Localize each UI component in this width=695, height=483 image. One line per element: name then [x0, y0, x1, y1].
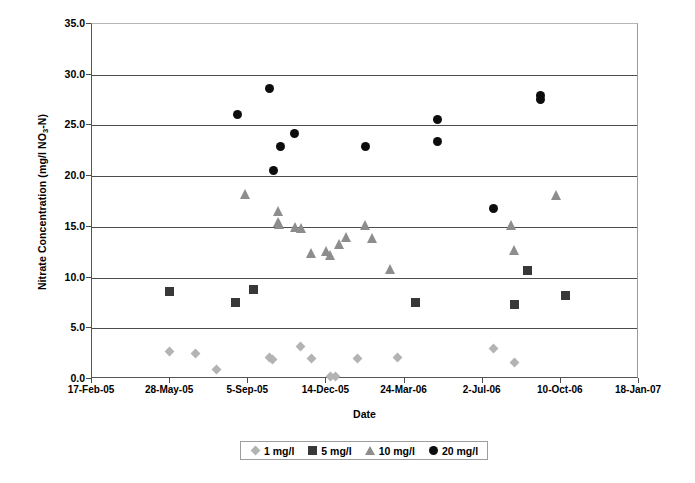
- data-point-diamond: [489, 344, 499, 354]
- data-point-triangle: [551, 190, 561, 200]
- legend-entry-label: 1 mg/l: [264, 445, 294, 457]
- x-axis-tick-mark: [247, 378, 248, 383]
- data-point-diamond: [393, 353, 403, 363]
- y-axis-tick-mark: [86, 175, 91, 176]
- data-point-triangle: [240, 189, 250, 199]
- data-point-triangle: [273, 206, 283, 216]
- x-axis-tick-label: 5-Sep-05: [202, 384, 292, 395]
- data-point-circle: [489, 204, 498, 213]
- data-point-square: [231, 298, 240, 307]
- gridline-horizontal: [92, 75, 637, 76]
- data-point-triangle: [360, 220, 370, 230]
- data-point-square: [510, 300, 519, 309]
- y-axis-tick-label: 20.0: [37, 170, 85, 180]
- data-point-diamond: [267, 355, 277, 365]
- y-axis-tick-label: 15.0: [37, 221, 85, 231]
- data-point-square: [523, 266, 532, 275]
- data-point-diamond: [191, 349, 201, 359]
- y-axis-tick-label: 5.0: [37, 322, 85, 332]
- x-axis-tick-mark: [91, 378, 92, 383]
- x-axis-tick-label: 28-May-05: [124, 384, 214, 395]
- x-axis-tick-label: 2-Jul-06: [437, 384, 527, 395]
- plot-area: [91, 23, 638, 378]
- chart-legend: 1 mg/l5 mg/l10 mg/l20 mg/l: [240, 441, 488, 460]
- x-axis-tick-label: 17-Feb-05: [46, 384, 136, 395]
- data-point-triangle: [321, 246, 331, 256]
- data-point-circle: [290, 129, 299, 138]
- y-axis-tick-label: 30.0: [37, 69, 85, 79]
- data-point-circle: [233, 110, 242, 119]
- data-point-triangle: [367, 233, 377, 243]
- gridline-horizontal: [92, 227, 637, 228]
- data-point-diamond: [212, 365, 222, 375]
- gridline-horizontal: [92, 278, 637, 279]
- legend-entry: 10 mg/l: [365, 445, 415, 457]
- gridline-horizontal: [92, 176, 637, 177]
- data-point-triangle: [325, 250, 335, 260]
- legend-entry-label: 5 mg/l: [321, 445, 351, 457]
- square-marker-icon: [307, 445, 318, 456]
- data-point-triangle: [296, 223, 306, 233]
- legend-entry: 1 mg/l: [250, 445, 294, 457]
- legend-entry: 20 mg/l: [428, 445, 478, 457]
- data-point-diamond: [306, 354, 316, 364]
- y-axis-tick-label: 10.0: [37, 272, 85, 282]
- x-axis-tick-label: 10-Oct-06: [515, 384, 605, 395]
- data-point-triangle: [334, 239, 344, 249]
- x-axis-tick-label: 14-Dec-05: [280, 384, 370, 395]
- x-axis-title: Date: [91, 408, 638, 420]
- data-point-square: [561, 291, 570, 300]
- y-axis-title-subscript: 3: [41, 129, 50, 133]
- data-point-circle: [269, 166, 278, 175]
- data-point-triangle: [506, 220, 516, 230]
- data-point-triangle: [273, 217, 283, 227]
- y-axis-tick-label: 25.0: [37, 119, 85, 129]
- data-point-circle: [361, 142, 370, 151]
- circle-marker-icon: [428, 445, 439, 456]
- legend-entry-label: 20 mg/l: [442, 445, 478, 457]
- data-point-diamond: [509, 358, 519, 368]
- x-axis-tick-mark: [325, 378, 326, 383]
- legend-entry-label: 10 mg/l: [379, 445, 415, 457]
- y-axis-tick-mark: [86, 74, 91, 75]
- y-axis-tick-mark: [86, 226, 91, 227]
- data-point-diamond: [264, 353, 274, 363]
- data-point-circle: [265, 84, 274, 93]
- nitrate-concentration-chart: Nitrate Concentration (mg/l NO3-N) 0.05.…: [0, 0, 695, 483]
- triangle-marker-icon: [365, 445, 376, 456]
- data-point-circle: [536, 95, 545, 104]
- x-axis-tick-mark: [638, 378, 639, 383]
- y-axis-tick-mark: [86, 23, 91, 24]
- gridline-horizontal: [92, 125, 637, 126]
- y-axis-title-pre: Nitrate Concentration (mg/l NO: [36, 133, 48, 290]
- y-axis-tick-mark: [86, 327, 91, 328]
- x-axis-tick-mark: [482, 378, 483, 383]
- x-axis-tick-label: 18-Jan-07: [593, 384, 683, 395]
- y-axis-tick-mark: [86, 277, 91, 278]
- data-point-diamond: [164, 347, 174, 357]
- data-point-diamond: [331, 372, 341, 382]
- diamond-marker-icon: [250, 445, 261, 456]
- data-point-triangle: [385, 264, 395, 274]
- x-axis-tick-mark: [560, 378, 561, 383]
- legend-entry: 5 mg/l: [307, 445, 351, 457]
- y-axis-tick-mark: [86, 124, 91, 125]
- data-point-circle: [276, 142, 285, 151]
- data-point-diamond: [295, 342, 305, 352]
- data-point-triangle: [509, 245, 519, 255]
- y-axis-tick-label: 35.0: [37, 18, 85, 28]
- data-point-diamond: [352, 354, 362, 364]
- x-axis-tick-mark: [404, 378, 405, 383]
- data-point-square: [165, 287, 174, 296]
- data-point-diamond: [326, 372, 336, 382]
- data-point-circle: [433, 137, 442, 146]
- y-axis-tick-label: 0.0: [37, 373, 85, 383]
- data-point-circle: [536, 91, 545, 100]
- x-axis-tick-label: 24-Mar-06: [359, 384, 449, 395]
- data-point-square: [249, 285, 258, 294]
- data-point-triangle: [341, 232, 351, 242]
- data-point-square: [411, 298, 420, 307]
- y-axis-title: Nitrate Concentration (mg/l NO3-N): [36, 37, 48, 367]
- x-axis-tick-mark: [169, 378, 170, 383]
- gridline-horizontal: [92, 328, 637, 329]
